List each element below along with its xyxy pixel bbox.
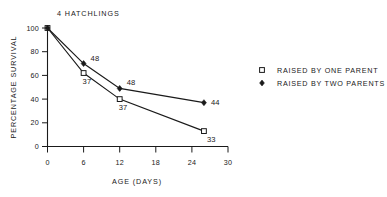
data-point-label: 48 <box>91 54 100 63</box>
y-tick-label: 60 <box>31 71 39 80</box>
chart-title: 4 HATCHLINGS <box>57 9 120 18</box>
data-point-label: 33 <box>207 135 216 144</box>
data-point-label: 48 <box>127 78 136 87</box>
x-tick-label: 18 <box>152 158 160 167</box>
x-tick-label: 24 <box>188 158 196 167</box>
data-point-label: 37 <box>119 103 128 112</box>
legend-item-1[interactable]: RAISED BY ONE PARENT <box>260 66 379 75</box>
legend-marker-open-square-icon <box>260 68 265 73</box>
data-point-marker <box>202 129 207 134</box>
y-tick-label: 100 <box>26 24 39 33</box>
y-tick-label: 0 <box>35 142 39 151</box>
chart-background <box>0 0 387 197</box>
x-tick-label: 6 <box>81 158 85 167</box>
data-point-label: 37 <box>83 77 92 86</box>
data-point-marker <box>117 97 122 102</box>
chart-canvas: 4 HATCHLINGS 020406080100 0612182430 PER… <box>0 0 387 197</box>
y-tick-label: 80 <box>31 47 39 56</box>
survival-chart-figure: 4 HATCHLINGS 020406080100 0612182430 PER… <box>0 0 387 197</box>
data-point-label: 44 <box>211 98 220 107</box>
legend-item-label: RAISED BY TWO PARENTS <box>277 79 385 88</box>
x-axis-title: AGE (DAYS) <box>112 177 162 186</box>
y-tick-label: 20 <box>31 118 39 127</box>
legend-item-2[interactable]: RAISED BY TWO PARENTS <box>260 79 385 88</box>
y-axis-title: PERCENTAGE SURVIVAL <box>9 36 18 139</box>
x-tick-label: 12 <box>115 158 123 167</box>
data-point-marker <box>81 71 86 76</box>
y-tick-label: 40 <box>31 95 39 104</box>
x-tick-label: 30 <box>224 158 232 167</box>
legend-item-label: RAISED BY ONE PARENT <box>277 66 378 75</box>
x-tick-label: 0 <box>45 158 49 167</box>
